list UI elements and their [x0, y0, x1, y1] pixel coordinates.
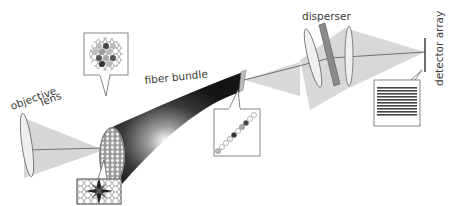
input-beam: [24, 118, 104, 178]
focusing-lens: [345, 26, 353, 86]
fiber-spectrometer-diagram: objective lens fiber bundle: [0, 0, 451, 206]
fiber-bundle-label: fiber bundle: [144, 67, 208, 86]
disperser-label: disperser: [302, 10, 351, 22]
detector-spectra-inset: [374, 70, 422, 126]
detector-array-label: detector array: [433, 11, 445, 86]
input-face-sparse-inset: [84, 33, 128, 96]
